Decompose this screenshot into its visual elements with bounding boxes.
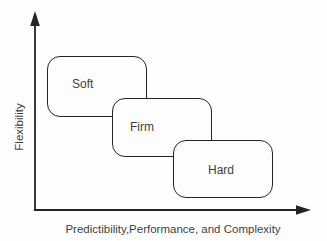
y-axis-arrow-icon bbox=[30, 11, 40, 26]
diagram-canvas: Soft Firm Hard Flexibility Predictibilit… bbox=[0, 0, 327, 241]
node-soft-label: Soft bbox=[72, 77, 93, 91]
x-axis-arrow-icon bbox=[296, 205, 311, 215]
node-hard: Hard bbox=[173, 140, 273, 198]
node-firm-label: Firm bbox=[130, 120, 154, 134]
x-axis-label: Predictibility,Performance, and Complexi… bbox=[35, 222, 311, 236]
node-hard-label: Hard bbox=[208, 163, 234, 177]
y-axis-label: Flexibility bbox=[12, 62, 26, 192]
